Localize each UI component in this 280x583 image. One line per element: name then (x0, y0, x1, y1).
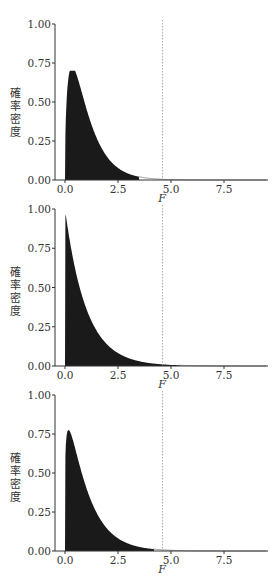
x-tick-label: 7.5 (216, 369, 233, 381)
x-axis-label: F (157, 378, 166, 391)
density-curve (138, 177, 266, 180)
y-tick-label: 0.50 (28, 96, 51, 108)
ylabel-char: 度 (8, 305, 22, 318)
y-tick-label: 0.50 (28, 282, 51, 294)
f-distribution-charts: 0.000.250.500.751.000.02.55.07.5F0.000.2… (0, 0, 280, 583)
y-tick-label: 0.75 (28, 57, 51, 69)
x-tick-label: 2.5 (110, 554, 127, 566)
ylabel-char: 率 (8, 100, 22, 113)
y-tick-label: 0.25 (28, 321, 51, 333)
ylabel-char: 確 (8, 266, 22, 279)
shaded-area (65, 71, 139, 180)
ylabel-char: 度 (8, 491, 22, 504)
x-axis-label: F (157, 563, 166, 576)
x-axis-label: F (157, 192, 166, 205)
y-tick-label: 1.00 (28, 203, 51, 215)
y-axis-label-2: 確 率 密 度 (8, 266, 22, 318)
y-tick-label: 0.75 (28, 242, 51, 254)
y-tick-label: 0.75 (28, 428, 51, 440)
x-tick-label: 0.0 (57, 183, 74, 195)
y-axis-label-1: 確 率 密 度 (8, 87, 22, 139)
y-tick-label: 1.00 (28, 18, 51, 30)
y-tick-label: 0.00 (28, 174, 51, 186)
x-tick-label: 7.5 (216, 554, 233, 566)
ylabel-char: 率 (8, 279, 22, 292)
y-tick-label: 1.00 (28, 389, 51, 401)
x-tick-label: 2.5 (110, 183, 127, 195)
ylabel-char: 密 (8, 478, 22, 491)
x-tick-label: 0.0 (57, 369, 74, 381)
y-tick-label: 0.25 (28, 506, 51, 518)
y-tick-label: 0.50 (28, 467, 51, 479)
ylabel-char: 確 (8, 87, 22, 100)
ylabel-char: 密 (8, 292, 22, 305)
y-tick-label: 0.25 (28, 135, 51, 147)
ylabel-char: 確 (8, 452, 22, 465)
ylabel-char: 度 (8, 126, 22, 139)
ylabel-char: 密 (8, 113, 22, 126)
x-tick-label: 7.5 (216, 183, 233, 195)
x-tick-label: 2.5 (110, 369, 127, 381)
ylabel-char: 率 (8, 465, 22, 478)
y-axis-label-3: 確 率 密 度 (8, 452, 22, 504)
x-tick-label: 0.0 (57, 554, 74, 566)
y-tick-label: 0.00 (28, 360, 51, 372)
shaded-area (65, 430, 154, 551)
y-tick-label: 0.00 (28, 545, 51, 557)
